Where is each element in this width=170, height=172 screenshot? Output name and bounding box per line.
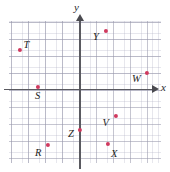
point-label-r: R (35, 148, 41, 159)
point-label-z: Z (68, 129, 74, 140)
point-label-y: Y (93, 32, 99, 43)
grid-background (9, 21, 161, 163)
point-label-s: S (35, 91, 40, 102)
x-axis-arrowhead-icon (152, 85, 159, 93)
y-axis-arrowhead-icon (76, 14, 84, 21)
y-axis-line (79, 19, 80, 169)
point-label-v: V (103, 118, 109, 129)
y-axis-label: y (74, 2, 79, 13)
point-label-x: X (111, 149, 117, 160)
coordinate-plane-figure: x y TYWSVZRX (0, 0, 170, 172)
point-label-w: W (132, 74, 141, 85)
x-axis-label: x (161, 82, 166, 93)
point-label-t: T (24, 40, 30, 51)
